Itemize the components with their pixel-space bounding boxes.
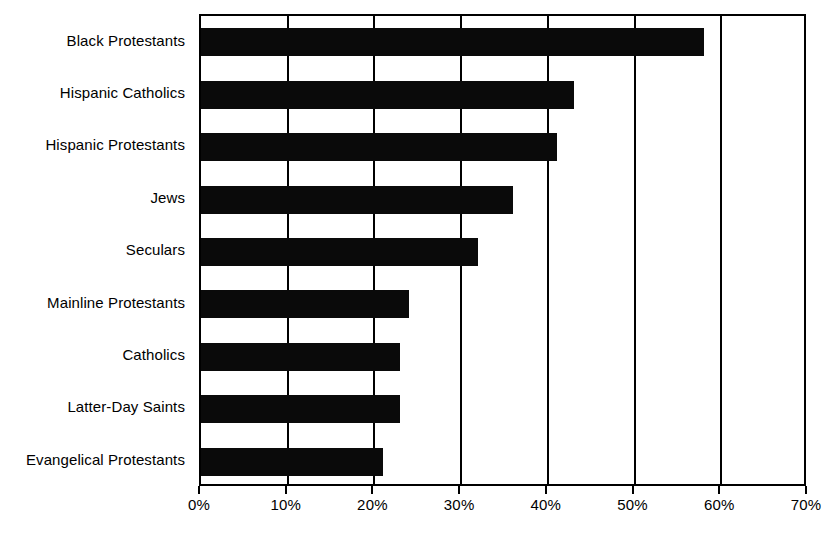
x-axis-tick	[545, 486, 547, 494]
x-axis-tick-label: 40%	[531, 497, 562, 512]
bars-layer	[201, 16, 804, 484]
y-axis-label-row: Mainline Protestants	[0, 276, 192, 328]
bar[interactable]	[201, 238, 478, 266]
bar-row	[201, 121, 804, 173]
bar[interactable]	[201, 290, 409, 318]
x-axis-tick	[805, 486, 807, 494]
bar-row	[201, 68, 804, 120]
bar-row	[201, 383, 804, 435]
y-axis-label-row: Black Protestants	[0, 14, 192, 66]
x-axis-tick-label: 60%	[704, 497, 735, 512]
y-axis-tick-label: Catholics	[122, 347, 192, 362]
bar[interactable]	[201, 28, 704, 56]
y-axis-tick-label: Latter-Day Saints	[67, 399, 192, 414]
y-axis-label-row: Catholics	[0, 328, 192, 380]
x-axis-tick	[371, 486, 373, 494]
bar[interactable]	[201, 186, 513, 214]
bar-row	[201, 16, 804, 68]
y-axis-tick-label: Seculars	[126, 242, 192, 257]
bar[interactable]	[201, 395, 400, 423]
y-axis-tick-label: Hispanic Catholics	[60, 85, 192, 100]
x-axis: 0%10%20%30%40%50%60%70%	[199, 486, 806, 532]
x-axis-tick-label: 20%	[357, 497, 388, 512]
y-axis-tick-label: Hispanic Protestants	[45, 137, 192, 152]
x-axis-tick	[458, 486, 460, 494]
x-axis-tick-label: 70%	[791, 497, 822, 512]
bar-row	[201, 436, 804, 488]
x-axis-tick	[285, 486, 287, 494]
bar[interactable]	[201, 343, 400, 371]
y-axis-label-row: Hispanic Catholics	[0, 66, 192, 118]
x-axis-tick-label: 30%	[444, 497, 475, 512]
y-axis-tick-label: Mainline Protestants	[47, 295, 192, 310]
y-axis-label-row: Latter-Day Saints	[0, 381, 192, 433]
y-axis-label-row: Seculars	[0, 224, 192, 276]
bar[interactable]	[201, 81, 574, 109]
y-axis-label-row: Hispanic Protestants	[0, 119, 192, 171]
bar[interactable]	[201, 133, 557, 161]
x-axis-tick-label: 50%	[617, 497, 648, 512]
bar[interactable]	[201, 448, 383, 476]
y-axis-tick-label: Jews	[150, 190, 192, 205]
y-axis-category-labels: Black Protestants Hispanic Catholics His…	[0, 14, 192, 486]
bar-row	[201, 278, 804, 330]
x-axis-tick	[718, 486, 720, 494]
x-axis-tick	[632, 486, 634, 494]
y-axis-label-row: Jews	[0, 171, 192, 223]
bar-row	[201, 331, 804, 383]
x-axis-tick	[198, 486, 200, 494]
x-axis-tick-label: 0%	[188, 497, 210, 512]
y-axis-tick-label: Evangelical Protestants	[26, 452, 192, 467]
bar-row	[201, 173, 804, 225]
bar-chart: Black Protestants Hispanic Catholics His…	[0, 0, 832, 534]
bar-row	[201, 226, 804, 278]
x-axis-tick-label: 10%	[270, 497, 301, 512]
y-axis-label-row: Evangelical Protestants	[0, 433, 192, 485]
y-axis-tick-label: Black Protestants	[67, 33, 192, 48]
plot-area	[199, 14, 806, 486]
